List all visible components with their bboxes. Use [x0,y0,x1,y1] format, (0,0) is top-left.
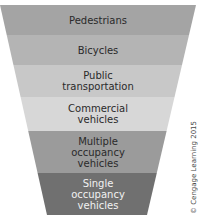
priority-pyramid-diagram: PedestriansBicyclesPublic transportation… [0,0,204,222]
band-label: Multiple occupancy vehicles [0,131,196,173]
pyramid-band-multiple-occupancy-vehicles: Multiple occupancy vehicles [0,131,204,173]
band-label: Single occupancy vehicles [0,173,196,215]
pyramid-band-bicycles: Bicycles [0,35,204,65]
band-label: Commercial vehicles [0,97,196,131]
copyright-notice: © Cengage Learning 2015 [190,121,198,214]
pyramid-band-commercial-vehicles: Commercial vehicles [0,97,204,131]
pyramid-band-public-transportation: Public transportation [0,65,204,97]
band-label: Pedestrians [0,5,196,35]
pyramid-band-pedestrians: Pedestrians [0,5,204,35]
band-label: Public transportation [0,65,196,97]
pyramid-band-single-occupancy-vehicles: Single occupancy vehicles [0,173,204,215]
band-label: Bicycles [0,35,196,65]
